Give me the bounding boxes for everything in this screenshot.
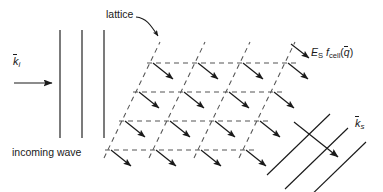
- lattice-dline: [194, 42, 250, 158]
- scattered-wavefront-1: [267, 114, 330, 175]
- lattice-leader-line: [136, 17, 158, 36]
- node-arrow: [153, 63, 173, 79]
- node-arrow: [184, 92, 204, 108]
- amplitude-E-subscript: S: [318, 51, 323, 60]
- node-arrow: [125, 121, 145, 137]
- lattice-node-arrows: [111, 63, 308, 166]
- node-arrow: [229, 92, 249, 108]
- amplitude-E-symbol: E: [311, 46, 318, 58]
- scattered-wavefront-3: [303, 142, 366, 192]
- node-arrow: [139, 92, 159, 108]
- lattice-dline: [239, 42, 295, 158]
- node-arrow: [274, 92, 294, 108]
- node-arrow: [111, 150, 131, 166]
- node-arrow: [198, 63, 218, 79]
- lattice-diagonal-lines: [104, 42, 295, 158]
- node-arrow: [201, 150, 221, 166]
- node-arrow: [215, 121, 235, 137]
- amplitude-paren-close: ): [350, 46, 354, 58]
- node-arrow: [156, 150, 176, 166]
- incoming-wavefronts: [60, 30, 104, 138]
- scattering-amplitude-label: ESfcell(q): [311, 47, 353, 59]
- lattice-dline: [149, 42, 205, 158]
- node-arrow: [246, 150, 266, 166]
- node-arrow: [170, 121, 190, 137]
- node-arrow: [260, 121, 280, 137]
- k-scattered-subscript: s: [361, 122, 365, 131]
- incoming-wave-label: incoming wave: [12, 147, 81, 158]
- scattering-diagram: [0, 0, 383, 192]
- node-arrow: [243, 63, 263, 79]
- scattered-wavevector-label: ks: [355, 118, 364, 131]
- incident-wavevector-label: ki: [13, 56, 20, 69]
- scattering-amplitude-pointer: [291, 44, 309, 58]
- lattice-label: lattice: [106, 9, 133, 20]
- node-arrow: [288, 63, 308, 79]
- scattered-wavefronts: [267, 114, 366, 192]
- k-incident-symbol: k: [13, 56, 19, 67]
- amplitude-q-symbol: q: [344, 47, 350, 58]
- amplitude-f-subscript: cell: [329, 51, 340, 60]
- scattered-wavefront-2: [285, 128, 348, 189]
- lattice-dline: [104, 42, 160, 158]
- k-scattered-symbol: k: [355, 118, 361, 129]
